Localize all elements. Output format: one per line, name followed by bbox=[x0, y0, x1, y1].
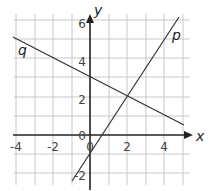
x-axis-arrow-icon bbox=[184, 131, 193, 139]
line-q-label: q bbox=[18, 42, 27, 58]
coordinate-graph: x y q p -4 -2 0 2 4 6 4 2 0 -2 bbox=[0, 0, 211, 191]
x-tick-label: -2 bbox=[47, 140, 59, 154]
x-tick-label: 4 bbox=[160, 140, 168, 154]
y-tick-label: -2 bbox=[74, 169, 86, 183]
x-axis-label: x bbox=[195, 128, 205, 144]
x-tick-label: 2 bbox=[123, 140, 131, 154]
y-tick-label: 0 bbox=[78, 129, 86, 143]
x-tick-label: 0 bbox=[86, 140, 94, 154]
line-p-label: p bbox=[171, 27, 181, 43]
y-tick-label: 2 bbox=[78, 93, 86, 107]
y-tick-label: 4 bbox=[78, 55, 86, 69]
x-tick-label: -4 bbox=[10, 140, 22, 154]
y-axis-label: y bbox=[93, 2, 103, 18]
y-tick-label: 6 bbox=[78, 17, 86, 31]
y-axis-arrow-icon bbox=[86, 14, 94, 23]
line-p bbox=[72, 17, 179, 181]
line-q bbox=[13, 37, 184, 125]
